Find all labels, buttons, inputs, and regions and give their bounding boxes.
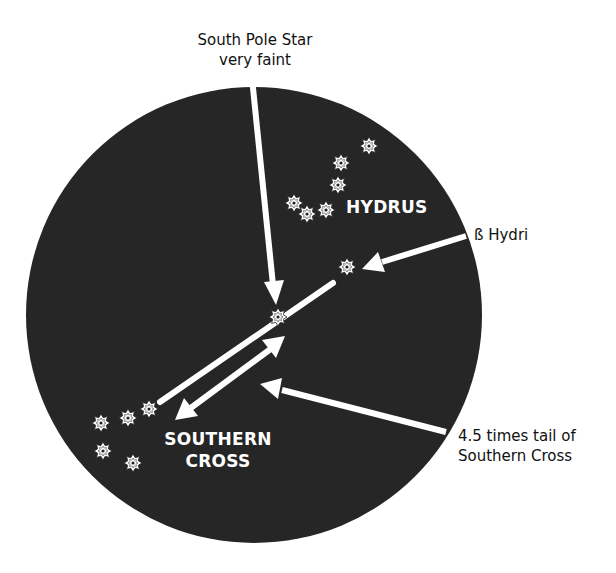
southern-cross-label-line1: SOUTHERN [158, 428, 278, 450]
south-pole-star-label: South Pole Star very faint [180, 30, 330, 70]
southern-cross-label-line2: CROSS [158, 450, 278, 472]
star-icon [119, 409, 137, 427]
star-icon [92, 414, 110, 432]
star-icon [332, 154, 350, 172]
star-icon [298, 205, 316, 223]
beta-hydri-star-icon [338, 258, 356, 276]
star-icon [124, 454, 142, 472]
star-icon [329, 176, 347, 194]
tail-multiple-label-line2: Southern Cross [458, 446, 576, 466]
star-icon [360, 137, 378, 155]
star-icon [140, 400, 158, 418]
sky-diagram [0, 0, 616, 573]
south-pole-star-label-line2: very faint [180, 50, 330, 70]
south-pole-star-icon [269, 308, 287, 326]
hydrus-label: HYDRUS [346, 196, 428, 218]
star-icon [285, 194, 303, 212]
tail-multiple-label: 4.5 times tail of Southern Cross [458, 426, 576, 466]
beta-hydri-label: ß Hydri [474, 225, 528, 245]
tail-multiple-label-line1: 4.5 times tail of [458, 426, 576, 446]
star-icon [317, 201, 335, 219]
star-icon [94, 442, 112, 460]
south-pole-star-label-line1: South Pole Star [180, 30, 330, 50]
night-sky-disc [26, 87, 482, 543]
southern-cross-label: SOUTHERN CROSS [158, 428, 278, 472]
